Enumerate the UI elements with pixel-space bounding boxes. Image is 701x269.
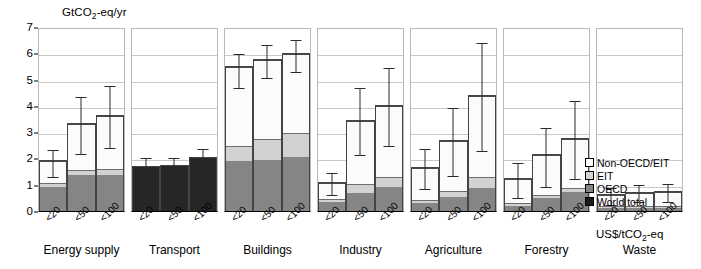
x-tick-group: <20<50<100	[224, 213, 311, 245]
bar-slot	[225, 29, 253, 211]
error-bar-cap-upper	[76, 97, 87, 98]
bar-slot	[532, 29, 560, 211]
error-bar	[481, 43, 482, 151]
x-tick-cell: <100	[282, 213, 311, 245]
error-bar-cap-upper	[104, 86, 115, 87]
legend-label: World total	[597, 196, 647, 208]
y-axis-tick-label: 3	[27, 127, 33, 139]
legend-swatch-icon	[585, 158, 594, 167]
x-tick-group: <20<50<100	[38, 213, 125, 245]
x-tick-cell: <50	[253, 213, 282, 245]
error-bar-cap-upper	[197, 149, 208, 150]
y-axis-unit-pre: GtCO	[62, 6, 92, 18]
error-bar-cap-lower	[197, 172, 208, 173]
x-tick-group: <20<50<100	[503, 213, 590, 245]
legend-item: OECD	[585, 182, 701, 195]
error-bar-cap-upper	[48, 150, 59, 151]
legend-label: OECD	[597, 183, 627, 195]
error-bar	[81, 97, 82, 154]
bar-segment-eit	[347, 184, 373, 193]
stacked-bar[interactable]	[253, 59, 281, 211]
x-tick-cell: <20	[410, 213, 439, 245]
bar-slot	[346, 29, 374, 211]
legend-item: World total	[585, 195, 701, 208]
sector-label: Energy supply	[38, 243, 125, 265]
legend-item: EIT	[585, 169, 701, 182]
error-bar-cap-lower	[448, 176, 459, 177]
sector-label: Agriculture	[410, 243, 497, 265]
error-bar	[574, 101, 575, 179]
bar-slot	[39, 29, 67, 211]
bar-segment-oecd	[226, 161, 252, 211]
error-bar-cap-upper	[141, 158, 152, 159]
x-tick-cell: <20	[224, 213, 253, 245]
error-bar-cap-upper	[290, 40, 301, 41]
error-bar-cap-upper	[513, 163, 524, 164]
sector-panel	[503, 28, 590, 212]
error-bar-cap-lower	[355, 155, 366, 156]
legend: Non-OECD/EITEITOECDWorld total	[585, 156, 701, 208]
x-tick-cell: <100	[561, 213, 590, 245]
bar-segment-eit	[283, 133, 309, 158]
error-bar-cap-lower	[476, 151, 487, 152]
x-tick-cell: <50	[67, 213, 96, 245]
error-bar-cap-lower	[234, 88, 245, 89]
y-axis-tick-label: 6	[27, 49, 33, 61]
x-tick-cell: <50	[532, 213, 561, 245]
error-bar	[546, 128, 547, 187]
sector-label-row: Energy supplyTransportBuildingsIndustryA…	[38, 243, 683, 265]
sector-label: Buildings	[224, 243, 311, 265]
y-axis-tick-label: 2	[27, 154, 33, 166]
sector-label: Forestry	[503, 243, 590, 265]
stacked-bar[interactable]	[282, 53, 310, 212]
y-axis-tick-label: 5	[27, 75, 33, 87]
error-bar-cap-lower	[262, 78, 273, 79]
error-bar-cap-lower	[541, 187, 552, 188]
bar-slot	[282, 29, 310, 211]
x-tick-cell: <50	[160, 213, 189, 245]
y-axis-tick-label: 7	[27, 22, 33, 34]
legend-swatch-icon	[585, 197, 594, 206]
error-bar	[53, 150, 54, 177]
y-axis-tick-label: 4	[27, 101, 33, 113]
legend-swatch-icon	[585, 184, 594, 193]
y-axis-tick-label: 1	[27, 180, 33, 192]
bar-slot	[439, 29, 467, 211]
error-bar-cap-lower	[327, 195, 338, 196]
error-bar	[518, 163, 519, 198]
x-axis-caption-pre: US$/tCO	[596, 228, 642, 240]
error-bar-cap-upper	[327, 173, 338, 174]
x-tick-cell: <20	[131, 213, 160, 245]
x-tick-group: <20<50<100	[317, 213, 404, 245]
legend-swatch-icon	[585, 171, 594, 180]
error-bar-cap-lower	[169, 178, 180, 179]
legend-label: EIT	[597, 170, 613, 182]
x-tick-cell: <100	[468, 213, 497, 245]
error-bar-cap-lower	[48, 177, 59, 178]
bar-slot	[96, 29, 124, 211]
bar-slot	[132, 29, 160, 211]
legend-item: Non-OECD/EIT	[585, 156, 701, 169]
error-bar-cap-upper	[569, 101, 580, 102]
error-bar-cap-lower	[290, 72, 301, 73]
y-axis-tick-label: 0	[27, 206, 33, 218]
bar-slot	[253, 29, 281, 211]
x-tick-cell: <20	[38, 213, 67, 245]
sector-panel	[131, 28, 218, 212]
bar-slot	[375, 29, 403, 211]
sector-panel	[410, 28, 497, 212]
error-bar-cap-upper	[448, 108, 459, 109]
error-bar	[202, 149, 203, 172]
x-tick-cell: <100	[375, 213, 404, 245]
x-axis-caption-post: -eq	[647, 228, 664, 240]
bar-segment-eit	[254, 139, 280, 160]
x-tick-cell: <100	[96, 213, 125, 245]
bar-slot	[189, 29, 217, 211]
error-bar-cap-lower	[569, 179, 580, 180]
bar-group	[504, 29, 589, 211]
bar-slot	[160, 29, 188, 211]
error-bar	[295, 40, 296, 72]
error-bar-cap-upper	[420, 149, 431, 150]
error-bar-cap-lower	[141, 178, 152, 179]
sector-label: Industry	[317, 243, 404, 265]
